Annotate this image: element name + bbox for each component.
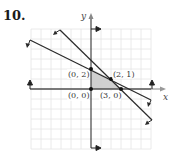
label-0-0: (0, 0) [68, 91, 90, 100]
arrow-right-icon [96, 27, 101, 32]
label-2-1: (2, 1) [113, 70, 135, 79]
arrow-down-icon [26, 43, 31, 48]
y-axis-arrow-icon [89, 13, 94, 19]
arrow-left-icon [145, 121, 150, 126]
vertex-0-0 [89, 87, 93, 91]
label-3-0: (3, 0) [100, 91, 122, 100]
x-axis-label: x [163, 92, 168, 102]
vertex-0-2 [89, 67, 93, 71]
label-0-2: (0, 2) [68, 70, 90, 79]
x-axis-arrow-icon [160, 87, 166, 92]
arrow-left-icon [53, 31, 58, 36]
arrow-up-icon [28, 80, 33, 85]
arrow-up-icon [150, 80, 155, 85]
graph: x y (0, 2) (2, 1) (0, 0) (3, 0) [0, 0, 173, 158]
arrow-right-icon [96, 146, 101, 151]
y-axis-label: y [80, 11, 87, 21]
